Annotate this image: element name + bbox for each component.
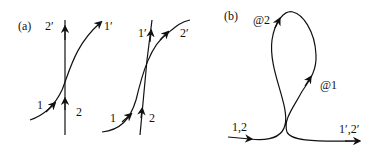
arrow-1r-out <box>160 33 167 40</box>
diagram-canvas: (a) 1 2 1′ 2′ 1 2 1′ 2′ (b) 1,2 1′,2′ @1… <box>0 0 377 153</box>
label-in-1: 1 <box>37 98 43 112</box>
label-in-1r: 1 <box>110 111 116 125</box>
label-in-2r: 2 <box>149 111 155 125</box>
label-out-1r: 1′ <box>138 26 147 40</box>
label-out: 1′,2′ <box>339 122 360 136</box>
panel-a-right: 1 2 1′ 2′ <box>102 20 190 135</box>
arrow-at1 <box>305 78 310 86</box>
label-out-2: 2′ <box>45 19 54 33</box>
label-out-1: 1′ <box>104 19 113 33</box>
label-in: 1,2 <box>232 120 247 134</box>
arrow-1-in <box>46 104 54 112</box>
figure: (a) 1 2 1′ 2′ 1 2 1′ 2′ (b) 1,2 1′,2′ @1… <box>0 0 377 153</box>
panel-a-left: (a) 1 2 1′ 2′ <box>18 19 113 135</box>
label-in-2: 2 <box>76 105 82 119</box>
label-at2: @2 <box>253 13 270 27</box>
panel-a-label: (a) <box>18 19 31 33</box>
label-at1: @1 <box>320 78 337 92</box>
panel-b-label: (b) <box>224 9 238 23</box>
arrow-in <box>228 137 250 139</box>
panel-b: (b) 1,2 1′,2′ @1 @2 <box>224 9 360 141</box>
arrow-at2 <box>275 20 279 28</box>
label-out-2r: 2′ <box>180 26 189 40</box>
